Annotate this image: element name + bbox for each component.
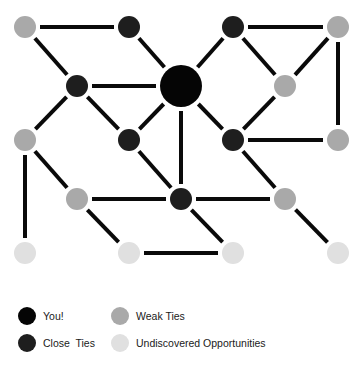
close-tie-node bbox=[170, 188, 192, 210]
legend-item-undiscovered-opportunities: Undiscovered Opportunities bbox=[111, 333, 266, 353]
undiscovered-node-icon bbox=[111, 334, 129, 352]
legend-label: Close Ties bbox=[43, 337, 95, 349]
edge-n1-n5 bbox=[35, 38, 67, 74]
weak-tie-node bbox=[274, 75, 296, 97]
weak-tie-node bbox=[66, 188, 88, 210]
edge-n5-n7 bbox=[35, 97, 66, 129]
edge-n4-n6 bbox=[295, 38, 328, 75]
close-tie-node-icon bbox=[18, 334, 36, 352]
edges-layer bbox=[25, 27, 338, 253]
you-node-icon bbox=[18, 307, 36, 325]
close-tie-node bbox=[118, 129, 140, 151]
legend-label: Undiscovered Opportunities bbox=[136, 337, 266, 349]
edge-n13-n17 bbox=[296, 210, 328, 243]
close-tie-node bbox=[118, 16, 140, 38]
edge-n2-you bbox=[139, 38, 165, 67]
legend-item-weak-ties: Weak Ties bbox=[111, 306, 185, 326]
edge-n7-n11 bbox=[35, 151, 67, 187]
edge-n8-n12 bbox=[139, 151, 171, 187]
edge-you-n8 bbox=[139, 104, 163, 129]
weak-tie-node bbox=[14, 129, 36, 151]
weak-tie-node bbox=[14, 16, 36, 38]
edge-n11-n15 bbox=[87, 210, 118, 242]
close-tie-node bbox=[222, 16, 244, 38]
undiscovered-tie-node bbox=[14, 242, 36, 264]
you-node bbox=[160, 65, 202, 107]
edge-n9-n13 bbox=[243, 151, 275, 187]
undiscovered-tie-node bbox=[118, 242, 140, 264]
legend-item-close-ties: Close Ties bbox=[18, 333, 95, 353]
edge-you-n9 bbox=[198, 104, 222, 129]
edge-n12-n16 bbox=[191, 210, 222, 242]
edge-n6-n9 bbox=[243, 97, 274, 129]
legend-label: You! bbox=[43, 310, 64, 322]
undiscovered-tie-node bbox=[222, 242, 244, 264]
weak-tie-node bbox=[274, 188, 296, 210]
edge-n3-n6 bbox=[243, 38, 275, 74]
close-tie-node bbox=[66, 75, 88, 97]
close-tie-node bbox=[222, 129, 244, 151]
weak-tie-node bbox=[327, 16, 349, 38]
legend-label: Weak Ties bbox=[136, 310, 185, 322]
edge-n5-n8 bbox=[87, 97, 118, 129]
edge-n3-you bbox=[198, 38, 224, 67]
undiscovered-tie-node bbox=[327, 242, 349, 264]
network-diagram bbox=[0, 0, 363, 280]
legend-item-you: You! bbox=[18, 306, 64, 326]
weak-tie-node-icon bbox=[111, 307, 129, 325]
weak-tie-node bbox=[327, 129, 349, 151]
legend: You! Close Ties Weak Ties Undiscovered O… bbox=[0, 300, 363, 360]
